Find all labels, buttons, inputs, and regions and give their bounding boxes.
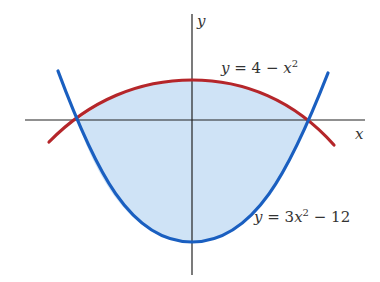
y-axis-label: y (196, 12, 206, 30)
x-axis-label: x (355, 125, 364, 143)
region-between-curves-diagram: y x y = 4 − x2 y = 3x2 − 12 (0, 0, 380, 282)
lower-curve-equation: y = 3x2 − 12 (253, 207, 350, 226)
upper-curve-equation: y = 4 − x2 (220, 58, 298, 77)
